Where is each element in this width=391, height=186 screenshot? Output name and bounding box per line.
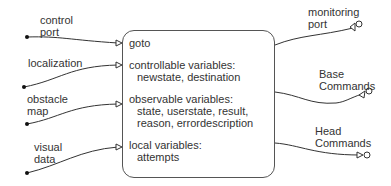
label-line: localization <box>28 57 82 69</box>
label-line: Base <box>319 68 344 80</box>
label-line: monitoring <box>308 6 359 18</box>
wire-base-commands <box>275 92 362 103</box>
component-title: goto <box>129 37 150 49</box>
input-label-visual-data: visualdata <box>34 141 62 165</box>
output-label-monitoring-port: monitoringport <box>308 6 359 30</box>
controllable-heading: controllable variables: <box>129 59 235 71</box>
input-dot-control <box>25 35 29 39</box>
label-line: port <box>308 18 327 30</box>
observable-items-2: reason, errordescription <box>137 117 253 129</box>
controllable-items: newstate, destination <box>137 71 240 83</box>
input-label-control-port: controlport <box>40 14 73 38</box>
arrow-out-icon <box>357 152 363 158</box>
label-line: obstacle <box>27 93 68 105</box>
observable-items-1: state, userstate, result, <box>137 105 248 117</box>
label-line: Head <box>315 125 341 137</box>
label-line: Commands <box>315 137 371 149</box>
arrow-out-icon <box>359 91 365 98</box>
label-line: data <box>34 153 55 165</box>
wire-monitoring-port <box>275 28 353 45</box>
port-circle-icon <box>364 152 370 158</box>
label-line: port <box>40 26 59 38</box>
input-dot-obstacle <box>25 122 29 126</box>
input-label-obstacle-map: obstaclemap <box>27 93 68 117</box>
label-line: map <box>27 105 48 117</box>
output-label-head-commands: HeadCommands <box>315 125 371 149</box>
label-line: Commands <box>319 80 375 92</box>
input-dot-visual <box>25 171 29 175</box>
input-dot-localization <box>22 85 26 89</box>
local-items: attempts <box>137 151 179 163</box>
output-label-base-commands: BaseCommands <box>319 68 375 92</box>
input-label-localization: localization <box>28 57 82 69</box>
label-line: visual <box>34 141 62 153</box>
label-line: control <box>40 14 73 26</box>
observable-heading: observable variables: <box>129 93 233 105</box>
local-heading: local variables: <box>129 139 202 151</box>
